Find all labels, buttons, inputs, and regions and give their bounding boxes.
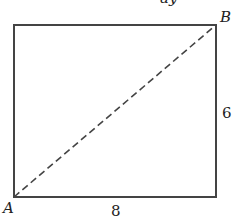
vertex-label-b: B — [219, 8, 231, 26]
side-label-bottom: 8 — [111, 202, 121, 218]
diagonal-line — [14, 25, 216, 197]
diagram-canvas: ay B A 6 8 — [0, 0, 240, 218]
top-text-fragment: ay — [160, 0, 178, 7]
vertex-label-a: A — [1, 199, 14, 217]
side-label-right: 6 — [222, 104, 232, 122]
